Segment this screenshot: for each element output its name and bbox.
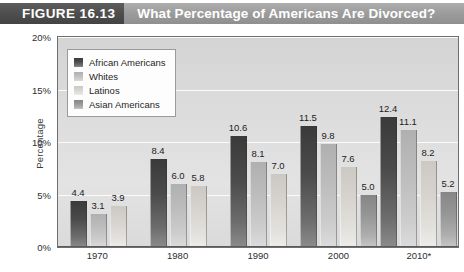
bar-value-label: 5.0 bbox=[361, 181, 374, 192]
bar-group: 10.68.17.0 bbox=[218, 37, 298, 247]
bar-value-label: 3.9 bbox=[111, 192, 124, 203]
bar[interactable]: 7.0 bbox=[270, 174, 287, 248]
x-tick-label: 1990 bbox=[218, 250, 298, 261]
bar-value-label: 10.6 bbox=[229, 122, 248, 133]
bar-value-label: 7.6 bbox=[341, 153, 354, 164]
bar[interactable]: 6.0 bbox=[170, 184, 187, 247]
y-tick-label: 20% bbox=[18, 32, 51, 43]
legend-swatch-icon bbox=[74, 58, 83, 67]
x-axis-ticks: 19701980199020002010* bbox=[57, 250, 459, 261]
legend-label: Whites bbox=[89, 71, 118, 82]
bar-value-label: 11.1 bbox=[399, 116, 417, 127]
bar[interactable]: 3.1 bbox=[90, 214, 107, 247]
bar-value-label: 8.4 bbox=[151, 145, 164, 156]
x-tick-label: 1970 bbox=[57, 250, 137, 261]
axis-baseline bbox=[58, 246, 458, 247]
legend-item: African Americans bbox=[74, 55, 166, 69]
bar[interactable]: 3.9 bbox=[110, 206, 127, 247]
x-tick-label: 1980 bbox=[137, 250, 217, 261]
bar-group: 11.59.87.65.0 bbox=[298, 37, 378, 247]
x-tick-label: 2010* bbox=[379, 250, 459, 261]
figure-number: FIGURE 16.13 bbox=[0, 3, 124, 24]
legend-item: Latinos bbox=[74, 83, 166, 97]
bar[interactable]: 10.6 bbox=[230, 136, 247, 247]
bar-value-label: 3.1 bbox=[91, 200, 104, 211]
bar[interactable]: 12.4 bbox=[380, 117, 397, 247]
bar-value-label: 11.5 bbox=[299, 112, 317, 123]
bar-value-label: 12.4 bbox=[379, 103, 398, 114]
bar[interactable]: 7.6 bbox=[340, 167, 357, 247]
legend-item: Whites bbox=[74, 69, 166, 83]
bar-value-label: 8.2 bbox=[421, 147, 434, 158]
bar[interactable]: 8.2 bbox=[420, 161, 437, 247]
bar-value-label: 5.2 bbox=[441, 178, 454, 189]
y-axis-ticks: 0%5%10%15%20% bbox=[18, 36, 51, 248]
y-tick-label: 15% bbox=[18, 84, 51, 95]
bar-group: 12.411.18.25.2 bbox=[378, 37, 458, 247]
bar-value-label: 8.1 bbox=[251, 148, 264, 159]
chart-legend: African Americans Whites Latinos Asian A… bbox=[67, 49, 176, 117]
bar[interactable]: 8.1 bbox=[250, 162, 267, 247]
figure-container: FIGURE 16.13 What Percentage of American… bbox=[0, 0, 464, 272]
legend-label: Latinos bbox=[89, 85, 120, 96]
figure-title: What Percentage of Americans Are Divorce… bbox=[124, 3, 435, 24]
y-tick-label: 0% bbox=[18, 242, 51, 253]
plot-area: 4.43.13.98.46.05.810.68.17.011.59.87.65.… bbox=[57, 36, 459, 248]
legend-swatch-icon bbox=[74, 86, 83, 95]
bar[interactable]: 11.1 bbox=[400, 130, 417, 247]
bar-value-label: 6.0 bbox=[171, 170, 184, 181]
bar-value-label: 4.4 bbox=[71, 187, 84, 198]
legend-swatch-icon bbox=[74, 72, 83, 81]
bar[interactable]: 9.8 bbox=[320, 144, 337, 247]
bar[interactable]: 4.4 bbox=[70, 201, 87, 247]
x-tick-label: 2000 bbox=[298, 250, 378, 261]
y-tick-label: 10% bbox=[18, 137, 51, 148]
bar[interactable]: 5.8 bbox=[190, 186, 207, 247]
bar-value-label: 9.8 bbox=[321, 130, 334, 141]
bar-value-label: 5.8 bbox=[191, 172, 204, 183]
legend-item: Asian Americans bbox=[74, 97, 166, 111]
bar[interactable]: 5.0 bbox=[360, 195, 377, 248]
legend-label: Asian Americans bbox=[89, 99, 160, 110]
bar[interactable]: 11.5 bbox=[300, 126, 317, 247]
figure-header: FIGURE 16.13 What Percentage of American… bbox=[0, 3, 464, 24]
legend-swatch-icon bbox=[74, 100, 83, 109]
y-tick-label: 5% bbox=[18, 189, 51, 200]
bar[interactable]: 5.2 bbox=[440, 192, 457, 247]
bar-value-label: 7.0 bbox=[271, 160, 284, 171]
bar[interactable]: 8.4 bbox=[150, 159, 167, 247]
legend-label: African Americans bbox=[89, 57, 166, 68]
